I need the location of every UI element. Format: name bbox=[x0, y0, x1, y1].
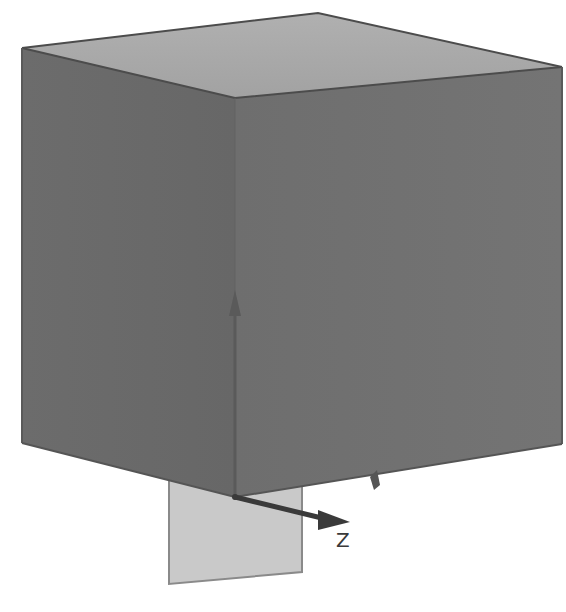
scene-canvas bbox=[0, 0, 566, 612]
origin-point bbox=[232, 494, 238, 500]
cube-left-face[interactable] bbox=[22, 48, 235, 497]
3d-viewport[interactable]: Z bbox=[0, 0, 566, 612]
z-axis-label: Z bbox=[336, 530, 350, 550]
cube-right-face[interactable] bbox=[235, 67, 562, 497]
